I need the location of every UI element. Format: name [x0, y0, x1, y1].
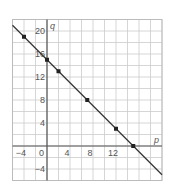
data-point — [114, 127, 118, 131]
y-tick-label: 12 — [35, 72, 45, 82]
y-tick-label: 8 — [40, 95, 45, 105]
data-point — [57, 69, 61, 73]
x-tick-label: −4 — [16, 148, 26, 158]
data-point — [131, 144, 135, 148]
x-tick-label: 8 — [87, 148, 92, 158]
line-chart: pq −404812−448121620 — [0, 0, 172, 193]
x-axis-label: p — [153, 135, 159, 145]
data-point — [45, 58, 49, 62]
y-tick-label: 4 — [40, 118, 45, 128]
y-tick-label: 16 — [35, 49, 45, 59]
data-point — [22, 35, 26, 39]
x-tick-label: 12 — [108, 148, 118, 158]
y-tick-label: 20 — [35, 26, 45, 36]
y-axis-label: q — [50, 21, 55, 31]
x-tick-label: 0 — [39, 148, 44, 158]
data-point — [85, 98, 89, 102]
y-tick-label: −4 — [35, 164, 45, 174]
x-tick-label: 4 — [64, 148, 69, 158]
